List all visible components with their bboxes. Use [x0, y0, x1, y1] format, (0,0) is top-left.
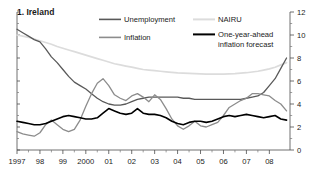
x-axis-tick-label: 02 — [127, 157, 135, 166]
x-axis-tick-label: 08 — [265, 157, 273, 166]
chart-container: 1. Ireland 121086420 1997989920000102030… — [0, 0, 317, 177]
legend-label: Unemployment — [124, 15, 176, 24]
legend-label: inflation forecast — [218, 40, 274, 49]
x-axis-tick-label: 05 — [196, 157, 204, 166]
ireland-unemployment-inflation-chart: 1. Ireland 121086420 1997989920000102030… — [0, 0, 317, 177]
x-axis-tick-label: 01 — [105, 157, 113, 166]
x-axis-tick-label: 07 — [242, 157, 250, 166]
x-axis-tick-label: 2000 — [77, 157, 94, 166]
y-axis-tick-label: 6 — [297, 77, 301, 86]
legend-label: One-year-ahead — [218, 30, 273, 39]
x-axis-tick-label: 98 — [36, 157, 44, 166]
x-axis-tick-label: 03 — [150, 157, 158, 166]
y-axis-tick-label: 0 — [297, 146, 301, 155]
x-axis-tick-label: 1997 — [9, 157, 26, 166]
legend-label: NAIRU — [218, 15, 242, 24]
y-axis-tick-label: 10 — [297, 31, 305, 40]
y-axis-tick-label: 12 — [297, 8, 305, 17]
y-axis-tick-label: 2 — [297, 123, 301, 132]
x-axis-tick-label: 04 — [173, 157, 181, 166]
x-axis-tick-label: 99 — [59, 157, 67, 166]
legend-label: Inflation — [124, 33, 151, 42]
x-axis-tick-label: 06 — [219, 157, 227, 166]
y-axis-tick-label: 4 — [297, 100, 301, 109]
y-axis-tick-label: 8 — [297, 54, 301, 63]
chart-title: 1. Ireland — [17, 7, 54, 17]
